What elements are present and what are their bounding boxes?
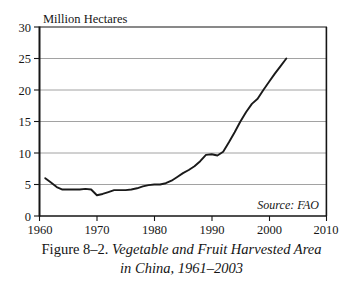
y-tick-labels: 30 25 20 15 10 5 0 [19, 21, 32, 224]
y-tick-label-30: 30 [19, 21, 32, 35]
y-tick-label-0: 0 [25, 210, 31, 224]
x-tick-label-1990: 1990 [200, 223, 225, 237]
y-tick-label-25: 25 [19, 52, 32, 66]
caption-figure-number: Figure 8–2. [42, 241, 109, 257]
x-tick-labels: 1960 1970 1980 1990 2000 2010 [28, 223, 339, 237]
x-tick-label-2000: 2000 [257, 223, 282, 237]
source-note: Source: FAO [257, 198, 319, 212]
x-tick-label-1960: 1960 [28, 223, 53, 237]
x-tick-label-1980: 1980 [142, 223, 167, 237]
y-tick-label-20: 20 [19, 84, 32, 98]
line-chart: 30 25 20 15 10 5 0 1960 1970 1980 1990 2… [0, 0, 363, 281]
y-tick-marks [34, 27, 39, 216]
y-tick-label-15: 15 [19, 115, 32, 129]
x-tick-label-1970: 1970 [85, 223, 110, 237]
caption-title-line1: Vegetable and Fruit Harvested Area [112, 241, 321, 257]
caption-title-line2: in China, 1961–2003 [120, 260, 243, 276]
x-tick-label-2010: 2010 [314, 223, 339, 237]
figure-container: 30 25 20 15 10 5 0 1960 1970 1980 1990 2… [0, 0, 363, 281]
figure-caption: Figure 8–2. Vegetable and Fruit Harveste… [0, 240, 363, 278]
y-tick-label-10: 10 [19, 147, 32, 161]
y-tick-label-5: 5 [25, 178, 31, 192]
y-axis-title: Million Hectares [43, 12, 127, 26]
